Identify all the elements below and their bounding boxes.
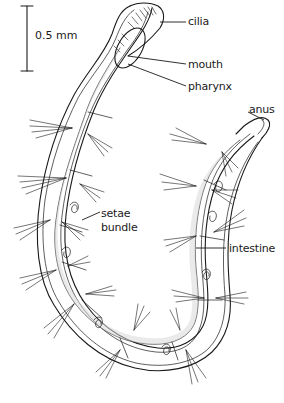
label-setae-line2: bundle xyxy=(101,222,138,233)
worm-illustration xyxy=(0,0,284,403)
label-intestine: intestine xyxy=(229,243,275,254)
setae-bundle xyxy=(20,256,90,290)
setae-bundles xyxy=(14,120,248,384)
label-anus: anus xyxy=(249,104,275,115)
tail xyxy=(236,118,270,138)
scale-bar-label: 0.5 mm xyxy=(35,30,77,41)
setae-bundle xyxy=(30,120,112,156)
scale-bar xyxy=(21,6,33,71)
worm-diagram: 0.5 mm cilia mouth pharynx anus setae bu… xyxy=(0,0,284,403)
setae-bundle xyxy=(14,220,88,240)
setae-bundle xyxy=(170,308,206,384)
setae-bundle xyxy=(172,290,248,304)
pharynx-leader xyxy=(128,64,186,86)
label-mouth: mouth xyxy=(188,59,223,70)
label-cilia: cilia xyxy=(188,16,209,27)
body-wall xyxy=(37,6,262,371)
setae-leader xyxy=(82,212,100,220)
label-pharynx: pharynx xyxy=(188,81,232,92)
label-setae-line1: setae xyxy=(101,208,130,219)
setae-bundle xyxy=(170,128,238,176)
